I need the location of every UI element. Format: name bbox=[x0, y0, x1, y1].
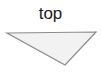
downward-triangle-svg[interactable] bbox=[0, 26, 101, 72]
downward-triangle-icon[interactable] bbox=[7, 32, 96, 65]
shape-container bbox=[0, 26, 101, 72]
diagram-canvas: top bbox=[0, 0, 101, 80]
shape-label-top: top bbox=[0, 4, 101, 24]
